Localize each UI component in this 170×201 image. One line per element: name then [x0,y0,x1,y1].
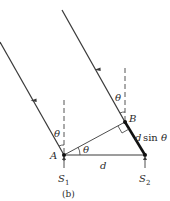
label-point-A: A [49,150,57,161]
svg-text:sin: sin [143,132,158,143]
point-B-dot [123,120,127,124]
label-distance-d: d [100,160,106,171]
ray-from-S2 [62,10,125,122]
source-arrow-S1 [62,156,66,168]
label-S1: S 1 [58,173,69,187]
angle-arc-top-A [59,145,64,146]
source-arrow-S2 [143,156,147,168]
label-theta-top-A: θ [54,128,60,139]
svg-text:S: S [58,173,65,184]
perpendicular-A-to-B [64,122,125,155]
label-d-sin-theta: d sin θ [135,132,167,143]
double-slit-path-difference-diagram: θ θ θ A B d d sin θ S 1 S 2 (b) [0,0,170,201]
svg-text:2: 2 [146,179,150,187]
svg-text:d: d [135,132,141,143]
label-theta-top-B: θ [115,92,121,103]
angle-arc-A [78,147,80,155]
label-S2: S 2 [139,173,150,187]
svg-text:1: 1 [65,179,69,187]
figure-caption: (b) [62,189,75,199]
angle-arc-top-B [120,112,125,113]
svg-text:θ: θ [161,132,167,143]
label-theta-angle-A: θ [83,144,89,155]
label-point-B: B [128,113,136,124]
svg-text:S: S [139,173,146,184]
